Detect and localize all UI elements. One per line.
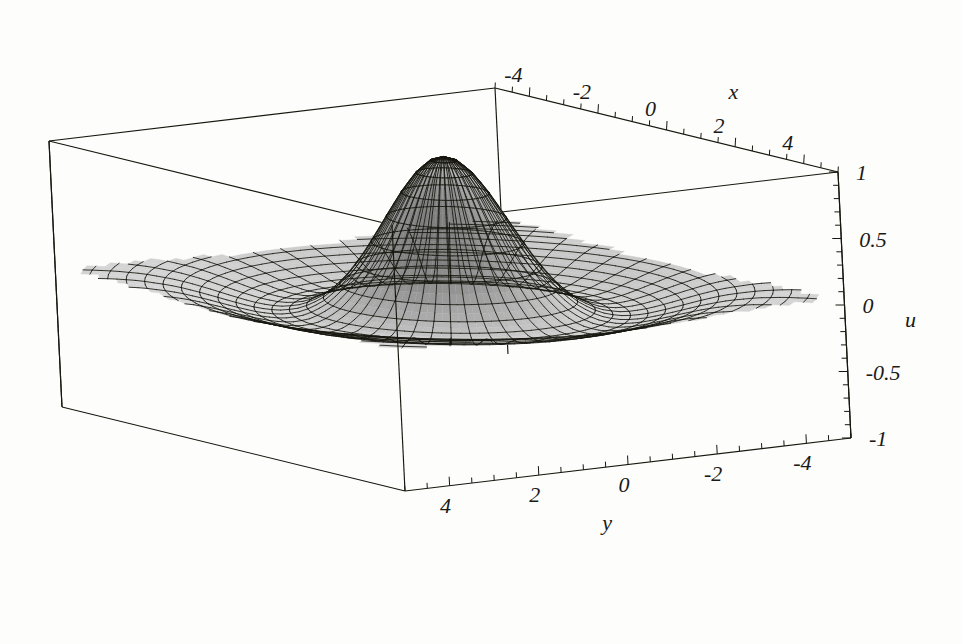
y-tick-label-2: 0 <box>619 472 630 497</box>
y-tick-label-0: -4 <box>793 450 811 475</box>
y-axis-name: y <box>600 510 612 535</box>
u-tick-label-0: 1 <box>856 160 867 185</box>
y-tick-label-4: 4 <box>440 493 451 518</box>
u-tick-label-1: 0.5 <box>859 227 887 252</box>
u-axis-name: u <box>905 307 916 332</box>
y-tick-label-1: -2 <box>704 461 722 486</box>
x-tick-label-3: 2 <box>714 113 725 138</box>
surface-plot-figure: -4-2024-4-202410.50-0.5-1xyu <box>0 0 962 644</box>
u-tick-label-4: -1 <box>869 426 887 451</box>
x-tick-label-1: -2 <box>573 79 591 104</box>
x-tick-label-0: -4 <box>504 62 522 87</box>
y-tick-label-3: 2 <box>529 482 540 507</box>
x-tick-label-4: 4 <box>782 130 793 155</box>
u-tick-label-2: 0 <box>863 293 874 318</box>
x-axis-name: x <box>728 79 739 104</box>
plot-canvas: -4-2024-4-202410.50-0.5-1xyu <box>0 0 962 644</box>
u-tick-label-3: -0.5 <box>866 360 901 385</box>
x-tick-label-2: 0 <box>645 96 656 121</box>
